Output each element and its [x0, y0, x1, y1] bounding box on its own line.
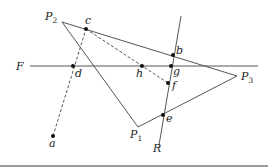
- label-f: f: [171, 79, 178, 92]
- label-g: g: [173, 65, 180, 78]
- line-r: [159, 16, 181, 145]
- label-b: b: [176, 44, 183, 57]
- label-a: a: [49, 137, 56, 150]
- point-c: [84, 27, 88, 31]
- label-h: h: [136, 67, 143, 80]
- triangle-p1-p2-p3: [62, 22, 237, 127]
- point-b: [171, 53, 175, 57]
- label-line-r: R: [152, 142, 161, 155]
- label-e: e: [166, 112, 173, 125]
- dashed-line-a-c: [53, 29, 86, 136]
- label-p1: P1: [129, 128, 142, 143]
- bottom-border: [0, 165, 268, 167]
- label-line-f: F: [15, 60, 24, 73]
- point-e: [161, 113, 165, 117]
- point-f: [166, 81, 170, 85]
- label-p2: P2: [44, 10, 57, 25]
- label-d: d: [75, 67, 82, 80]
- geometry-diagram: P2 P3 P1 F R a b c d e f g h: [0, 0, 268, 167]
- label-c: c: [85, 14, 91, 27]
- label-p3: P3: [240, 70, 253, 85]
- dashed-line-c-f: [86, 29, 168, 83]
